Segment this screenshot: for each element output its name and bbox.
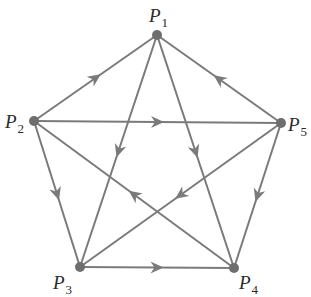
- arrowhead-icon: [214, 75, 228, 88]
- labels-group: P1P2P3P4P5: [4, 5, 307, 297]
- node-label-letter: P: [52, 272, 65, 293]
- directed-graph-diagram: P1P2P3P4P5: [0, 0, 311, 297]
- node-label-subscript: 4: [252, 282, 259, 297]
- node-label-subscript: 2: [18, 121, 25, 136]
- arrowheads-group: [49, 74, 265, 273]
- node-p5: [276, 118, 286, 128]
- node-p2: [29, 116, 39, 126]
- node-label-p3: P3: [52, 272, 72, 297]
- node-label-p4: P4: [238, 272, 259, 297]
- node-label-subscript: 5: [301, 124, 308, 139]
- node-label-letter: P: [4, 111, 17, 132]
- node-label-p1: P1: [148, 5, 168, 30]
- node-p1: [152, 30, 162, 40]
- node-label-letter: P: [287, 114, 300, 135]
- arrowhead-icon: [87, 74, 101, 86]
- node-label-subscript: 1: [162, 15, 169, 30]
- node-p3: [75, 262, 85, 272]
- node-label-p2: P2: [4, 111, 24, 136]
- edges-group: [34, 35, 281, 268]
- nodes-group: [29, 30, 286, 273]
- arrowhead-icon: [129, 191, 143, 204]
- node-label-letter: P: [148, 5, 161, 26]
- node-label-subscript: 3: [66, 282, 73, 297]
- arrowhead-icon: [175, 186, 189, 199]
- node-p4: [229, 263, 239, 273]
- node-label-p5: P5: [287, 114, 307, 139]
- node-label-letter: P: [238, 272, 251, 293]
